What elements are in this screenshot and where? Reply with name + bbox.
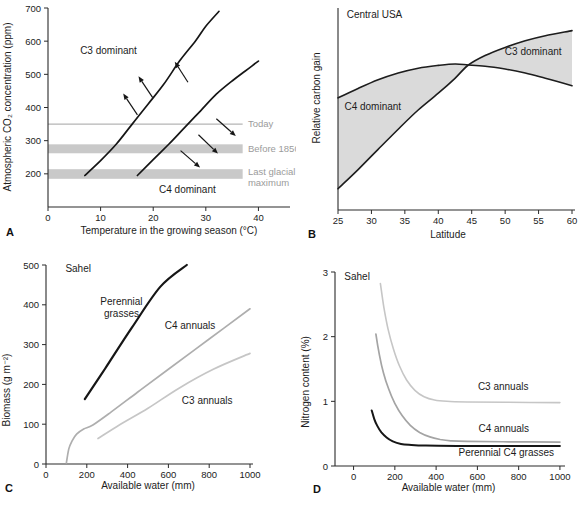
annotation-label: C4 annuals bbox=[165, 320, 216, 331]
y-axis-label: Biomass (g m⁻²) bbox=[1, 354, 12, 427]
x-tick-label: 600 bbox=[469, 471, 485, 482]
trend-arrow-head bbox=[123, 94, 128, 100]
panel-a: TodayBefore 1850Last glacialmaximum01020… bbox=[0, 0, 296, 252]
y-tick-label: 2 bbox=[323, 331, 328, 342]
panel-letter: B bbox=[308, 228, 316, 240]
x-tick-label: 20 bbox=[148, 212, 159, 223]
x-tick-label: 400 bbox=[428, 471, 444, 482]
y-tick-label: 200 bbox=[25, 168, 41, 179]
annotation-label: C4 dominant bbox=[159, 184, 216, 195]
y-tick-label: 3 bbox=[323, 267, 328, 278]
x-tick-label: 25 bbox=[333, 215, 344, 226]
x-axis-label: Available water (mm) bbox=[402, 482, 496, 493]
x-tick-label: 30 bbox=[366, 215, 377, 226]
x-tick-label: 800 bbox=[201, 469, 217, 480]
panel-c: 020040060080010000100200300400500SahelPe… bbox=[0, 252, 296, 505]
y-tick-label: 300 bbox=[25, 135, 41, 146]
x-tick-label: 40 bbox=[253, 212, 264, 223]
y-tick-label: 0 bbox=[323, 461, 328, 472]
x-tick-label: 10 bbox=[95, 212, 106, 223]
panel-letter: D bbox=[313, 483, 321, 495]
x-tick-label: 0 bbox=[351, 471, 356, 482]
trend-arrow-shaft bbox=[142, 81, 153, 97]
annotation-label: C4 annuals bbox=[479, 423, 530, 434]
c3-annuals-nitrogen-line bbox=[380, 284, 560, 403]
trend-arrow-shaft bbox=[178, 67, 188, 83]
panel-letter: C bbox=[5, 482, 13, 494]
panel-letter: A bbox=[6, 226, 14, 238]
c4-annuals-nitrogen-line bbox=[376, 334, 560, 442]
y-tick-label: 600 bbox=[25, 36, 41, 47]
x-tick-label: 1000 bbox=[549, 471, 570, 482]
shaded-region bbox=[468, 31, 572, 86]
reference-band-label: Last glacial bbox=[248, 166, 296, 177]
y-tick-label: 200 bbox=[23, 379, 39, 390]
y-tick-label: 0 bbox=[34, 459, 39, 470]
panel-b-chart: 2530354045505560Central USAC4 dominantC3… bbox=[296, 0, 583, 252]
y-tick-label: 400 bbox=[23, 299, 39, 310]
x-tick-label: 0 bbox=[43, 469, 48, 480]
x-tick-label: 50 bbox=[500, 215, 511, 226]
annotation-label: C4 dominant bbox=[344, 101, 401, 112]
annotation-label: C3 annuals bbox=[478, 381, 529, 392]
trend-arrow-head bbox=[138, 76, 143, 82]
panel-b: 2530354045505560Central USAC4 dominantC3… bbox=[296, 0, 583, 252]
x-tick-label: 60 bbox=[567, 215, 578, 226]
y-axis-label: Nitrogen content (%) bbox=[300, 336, 311, 428]
panel-a-chart: TodayBefore 1850Last glacialmaximum01020… bbox=[0, 0, 296, 252]
x-tick-label: 800 bbox=[511, 471, 527, 482]
annotation-label: Perennial C4 grasses bbox=[458, 447, 554, 458]
panel-d: 020040060080010000123SahelC3 annualsC4 a… bbox=[296, 252, 583, 505]
y-tick-label: 300 bbox=[23, 339, 39, 350]
x-tick-label: 200 bbox=[79, 469, 95, 480]
reference-band bbox=[48, 169, 243, 179]
y-axis-label: Atmospheric CO₂ concentration (ppm) bbox=[2, 23, 13, 192]
annotation-label: grasses bbox=[104, 308, 139, 319]
x-tick-label: 200 bbox=[387, 471, 403, 482]
reference-band-label: Today bbox=[248, 118, 274, 129]
x-axis-label: Temperature in the growing season (°C) bbox=[81, 225, 258, 236]
x-tick-label: 40 bbox=[433, 215, 444, 226]
x-axis-label: Latitude bbox=[430, 229, 466, 240]
annotation-label: Sahel bbox=[344, 271, 370, 282]
perennial-grasses-line bbox=[85, 265, 187, 399]
x-tick-label: 600 bbox=[160, 469, 176, 480]
y-tick-label: 1 bbox=[323, 396, 328, 407]
annotation-label: C3 annuals bbox=[182, 395, 233, 406]
annotation-label: Sahel bbox=[65, 263, 91, 274]
reference-band-label: maximum bbox=[248, 177, 289, 188]
x-tick-label: 400 bbox=[120, 469, 136, 480]
y-axis-label: Relative carbon gain bbox=[311, 52, 322, 143]
y-tick-label: 700 bbox=[25, 3, 41, 14]
x-tick-label: 0 bbox=[45, 212, 50, 223]
x-tick-label: 45 bbox=[466, 215, 477, 226]
y-tick-label: 400 bbox=[25, 102, 41, 113]
y-tick-label: 100 bbox=[23, 419, 39, 430]
annotation-label: C3 dominant bbox=[80, 45, 137, 56]
x-axis-label: Available water (mm) bbox=[101, 480, 195, 491]
annotation-label: Central USA bbox=[347, 9, 403, 20]
panel-d-chart: 020040060080010000123SahelC3 annualsC4 a… bbox=[296, 252, 583, 505]
annotation-label: C3 dominant bbox=[505, 46, 562, 57]
x-tick-label: 55 bbox=[533, 215, 544, 226]
trend-arrow-shaft bbox=[216, 119, 231, 132]
x-tick-label: 30 bbox=[201, 212, 212, 223]
four-panel-c3-c4-figure: TodayBefore 1850Last glacialmaximum01020… bbox=[0, 0, 583, 505]
annotation-label: Perennial bbox=[100, 296, 142, 307]
panel-c-chart: 020040060080010000100200300400500SahelPe… bbox=[0, 252, 296, 505]
x-tick-label: 1000 bbox=[239, 469, 260, 480]
x-tick-label: 35 bbox=[400, 215, 411, 226]
trend-arrow-shaft bbox=[127, 99, 138, 115]
reference-band-label: Before 1850 bbox=[248, 143, 296, 154]
y-tick-label: 500 bbox=[25, 69, 41, 80]
y-tick-label: 500 bbox=[23, 260, 39, 271]
c3-c4-boundary-right-line bbox=[137, 61, 258, 175]
